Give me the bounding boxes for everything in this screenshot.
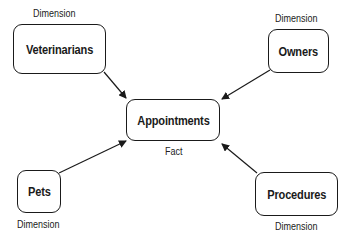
pets-role-label: Dimension bbox=[17, 219, 60, 230]
owners-node-label: Owners bbox=[279, 44, 319, 59]
pets-node-label: Pets bbox=[28, 184, 51, 199]
pets-node[interactable]: Pets bbox=[17, 170, 61, 213]
arrow-owners-to-appointments bbox=[222, 70, 270, 99]
appointments-node-label: Appointments bbox=[137, 113, 209, 128]
veterinarians-node-label: Veterinarians bbox=[26, 42, 93, 57]
owners-node[interactable]: Owners bbox=[268, 29, 329, 73]
arrow-pets-to-appointments bbox=[59, 141, 126, 173]
veterinarians-node[interactable]: Veterinarians bbox=[13, 24, 106, 74]
arrow-procedures-to-appointments bbox=[222, 144, 257, 173]
procedures-node-label: Procedures bbox=[267, 187, 326, 202]
veterinarians-role-label: Dimension bbox=[33, 8, 76, 19]
procedures-node[interactable]: Procedures bbox=[255, 172, 338, 216]
procedures-role-label: Dimension bbox=[275, 221, 318, 232]
owners-role-label: Dimension bbox=[275, 13, 318, 24]
arrow-veterinarians-to-appointments bbox=[104, 72, 126, 98]
appointments-node[interactable]: Appointments bbox=[126, 99, 220, 141]
appointments-role-label: Fact bbox=[165, 146, 183, 157]
